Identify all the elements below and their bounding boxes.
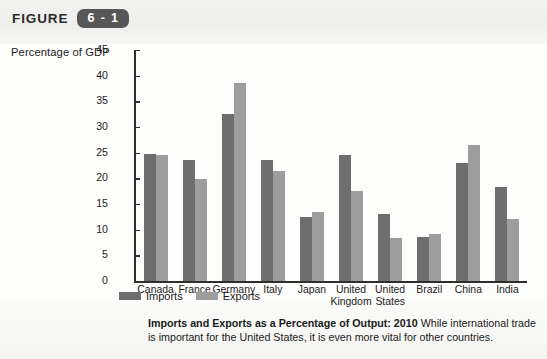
legend-swatch-imports-icon (119, 292, 141, 300)
bar-imports (417, 237, 429, 281)
bar-imports (183, 160, 195, 281)
bar-exports (468, 145, 480, 281)
bar-group (417, 50, 441, 281)
plot-area (136, 50, 527, 281)
chart-legend: Imports Exports (119, 290, 260, 302)
bar-exports (195, 179, 207, 281)
legend-swatch-exports-icon (196, 292, 218, 300)
bar-imports (456, 163, 468, 281)
bar-group (183, 50, 207, 281)
bar-group (378, 50, 402, 281)
bar-group (456, 50, 480, 281)
y-tick-label: 10 (96, 223, 108, 235)
bar-group (300, 50, 324, 281)
bar-exports (156, 155, 168, 281)
bar-group (261, 50, 285, 281)
bar-imports (144, 154, 156, 281)
x-axis-line (134, 281, 527, 283)
bar-imports (300, 217, 312, 281)
figure-label: FIGURE (12, 11, 68, 26)
bar-exports (351, 191, 363, 281)
caption-title: Imports and Exports as a Percentage of O… (148, 317, 418, 329)
bar-exports (390, 238, 402, 281)
y-tick-label: 5 (102, 248, 108, 260)
x-axis-label: United Kingdom (329, 284, 373, 307)
figure-header: FIGURE 6 - 1 (12, 9, 129, 28)
bar-group (495, 50, 519, 281)
bar-chart: 051015202530354045 CanadaFranceGermanyIt… (112, 50, 527, 282)
y-tick-label: 0 (102, 274, 108, 286)
legend-label-exports: Exports (223, 290, 260, 302)
bar-imports (261, 160, 273, 281)
bar-exports (507, 219, 519, 281)
bar-imports (222, 114, 234, 281)
y-tick-label: 35 (96, 94, 108, 106)
bar-exports (273, 171, 285, 281)
bar-exports (429, 234, 441, 281)
y-tick-label: 15 (96, 197, 108, 209)
y-tick-label: 45 (96, 43, 108, 55)
bar-group (222, 50, 246, 281)
y-tick-label: 40 (96, 69, 108, 81)
legend-item-exports: Exports (196, 290, 260, 302)
y-tick-label: 20 (96, 171, 108, 183)
figure-caption: Imports and Exports as a Percentage of O… (148, 316, 540, 344)
bar-imports (378, 214, 390, 281)
bar-imports (339, 155, 351, 281)
bar-imports (495, 187, 507, 281)
y-tick-mark (134, 281, 140, 282)
bar-exports (312, 212, 324, 281)
bar-group (339, 50, 363, 281)
legend-label-imports: Imports (146, 290, 183, 302)
legend-item-imports: Imports (119, 290, 183, 302)
y-tick-label: 30 (96, 120, 108, 132)
bar-exports (234, 83, 246, 281)
bar-group (144, 50, 168, 281)
y-axis-title: Percentage of GDP (11, 46, 110, 58)
figure-number-badge: 6 - 1 (77, 9, 129, 28)
x-axis-label: India (474, 284, 540, 296)
y-tick-label: 25 (96, 146, 108, 158)
